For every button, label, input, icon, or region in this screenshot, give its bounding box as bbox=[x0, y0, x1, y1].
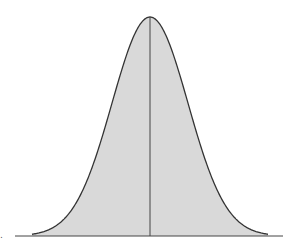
normal-distribution-chart bbox=[0, 0, 294, 246]
axis-tick-mark: . bbox=[0, 230, 3, 240]
